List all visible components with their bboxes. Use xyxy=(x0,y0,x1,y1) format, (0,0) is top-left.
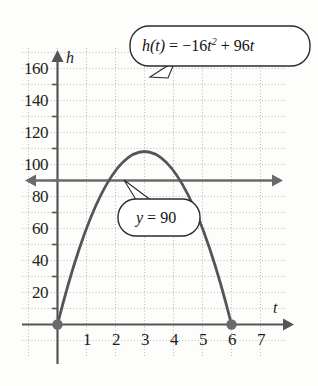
equation-fn: h(t) xyxy=(142,37,165,54)
equation-term1-coef: 16 xyxy=(191,37,207,54)
y-tick-label-140: 140 xyxy=(14,92,48,109)
root-point-t6 xyxy=(226,319,236,329)
x-tick-label-2: 2 xyxy=(105,331,127,348)
equation-callout-label: h(t) = −16t2 + 96t xyxy=(142,38,254,54)
equation-term2-var: t xyxy=(250,37,254,54)
x-tick-label-5: 5 xyxy=(192,331,214,348)
line-callout-label: y = 90 xyxy=(136,210,176,226)
equation-term2-coef: 96 xyxy=(234,37,250,54)
x-tick-label-1: 1 xyxy=(76,331,98,348)
root-point-t0 xyxy=(52,319,62,329)
equation-equals: = xyxy=(169,37,178,54)
equation-term1-sign: − xyxy=(182,37,191,54)
y-tick-label-120: 120 xyxy=(14,124,48,141)
y-tick-label-80: 80 xyxy=(14,188,48,205)
y-tick-label-160: 160 xyxy=(14,60,48,77)
equation-plus: + xyxy=(221,37,230,54)
y-tick-label-20: 20 xyxy=(14,284,48,301)
y-axis-label: h xyxy=(66,50,74,66)
y-tick-label-100: 100 xyxy=(14,156,48,173)
x-tick-label-7: 7 xyxy=(250,331,272,348)
line-callout-equals: = xyxy=(147,209,156,226)
x-tick-label-4: 4 xyxy=(163,331,185,348)
y-tick-label-60: 60 xyxy=(14,220,48,237)
line-callout-value: 90 xyxy=(160,209,176,226)
x-tick-label-3: 3 xyxy=(134,331,156,348)
y-tick-label-40: 40 xyxy=(14,252,48,269)
x-tick-label-6: 6 xyxy=(221,331,243,348)
graph-figure: 160 140 120 100 80 60 40 20 1 2 3 4 5 6 … xyxy=(0,0,318,386)
x-axis-label: t xyxy=(273,300,277,316)
